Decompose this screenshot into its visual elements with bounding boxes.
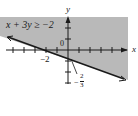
origin-label: 0 [60,40,64,48]
x-axis-label: x [132,45,136,54]
y-axis-label: y [66,5,70,14]
y-intercept-sign: − [74,79,79,87]
x-intercept-label: −2 [40,55,50,64]
y-intercept-numerator: 2 [80,73,84,80]
y-intercept-denominator: 3 [80,81,84,89]
inequality-graph [0,0,138,116]
inequality-label: x + 3y ≥ −2 [6,20,54,30]
